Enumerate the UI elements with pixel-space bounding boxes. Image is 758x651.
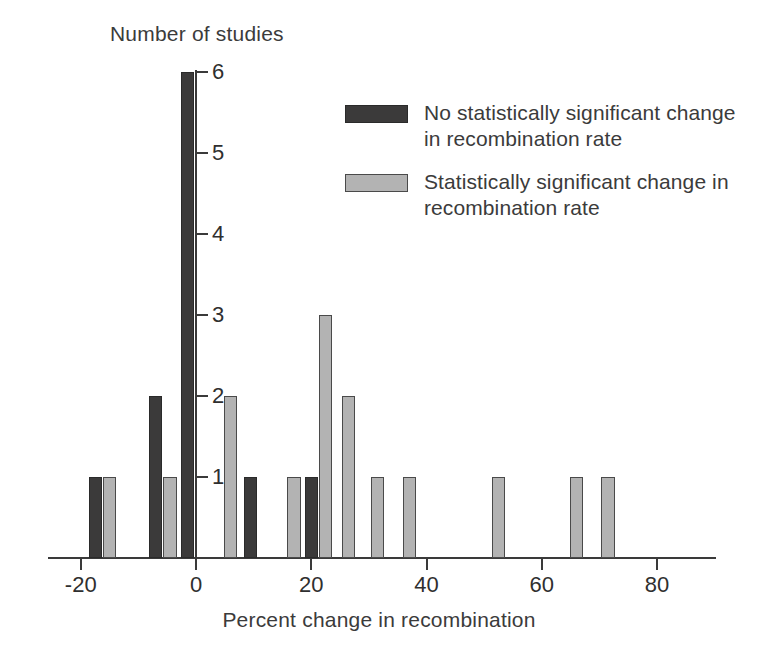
y-axis-tick-label: 1	[212, 464, 224, 490]
bar	[492, 477, 505, 558]
bar	[601, 477, 614, 558]
bar	[305, 477, 318, 558]
legend-swatch	[345, 105, 408, 123]
y-axis-tick-label: 5	[212, 140, 224, 166]
x-axis-tick	[426, 559, 428, 570]
legend-item: No statistically significant change in r…	[345, 100, 745, 152]
bar	[149, 396, 162, 558]
legend-item: Statistically significant change in reco…	[345, 169, 745, 221]
x-axis-tick	[310, 559, 312, 570]
x-axis-tick-label: 40	[414, 572, 438, 598]
x-axis-tick	[656, 559, 658, 570]
x-axis-title: Percent change in recombination	[0, 608, 758, 632]
x-axis-tick-label: 20	[299, 572, 323, 598]
bar	[342, 396, 355, 558]
bar	[103, 477, 116, 558]
y-axis-tick	[197, 233, 208, 235]
chart-legend: No statistically significant change in r…	[345, 100, 745, 238]
x-axis-tick	[541, 559, 543, 570]
x-axis-tick-label: 0	[190, 572, 202, 598]
y-axis-tick	[197, 395, 208, 397]
bar	[570, 477, 583, 558]
y-axis-tick	[197, 476, 208, 478]
x-axis-tick-label: 60	[530, 572, 554, 598]
bar	[287, 477, 300, 558]
y-axis-tick-label: 2	[212, 383, 224, 409]
y-axis-tick	[197, 314, 208, 316]
bar	[403, 477, 416, 558]
legend-swatch	[345, 174, 408, 192]
x-axis-tick	[195, 559, 197, 570]
y-axis-tick-label: 3	[212, 302, 224, 328]
bar	[89, 477, 102, 558]
bar	[319, 315, 332, 558]
recombination-histogram-figure: Number of studies -20020406080123456 No …	[0, 0, 758, 651]
bar	[244, 477, 257, 558]
y-axis-tick-label: 6	[212, 59, 224, 85]
x-axis-tick-label: 80	[645, 572, 669, 598]
x-axis-tick-label: -20	[65, 572, 97, 598]
x-axis-tick	[80, 559, 82, 570]
y-axis-tick-label: 4	[212, 221, 224, 247]
bar	[181, 72, 194, 558]
y-axis-tick	[197, 71, 208, 73]
y-axis-tick	[197, 152, 208, 154]
bar	[163, 477, 176, 558]
bar	[224, 396, 237, 558]
legend-label: No statistically significant change in r…	[424, 100, 745, 152]
plot-area: -20020406080123456	[0, 0, 758, 651]
bar	[371, 477, 384, 558]
legend-label: Statistically significant change in reco…	[424, 169, 745, 221]
